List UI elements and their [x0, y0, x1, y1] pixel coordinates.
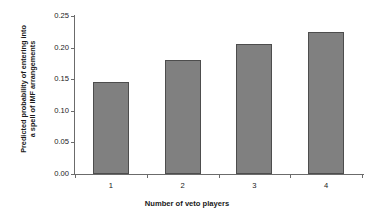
bar [165, 60, 201, 174]
y-axis-tick-label: 0.00 [54, 170, 69, 178]
x-axis-title: Number of veto players [0, 199, 374, 208]
x-axis-tick-label: 2 [181, 182, 185, 190]
x-axis-tick [75, 174, 76, 178]
x-axis-tick [362, 174, 363, 178]
bar [308, 32, 344, 174]
x-axis-tick-label: 4 [324, 182, 328, 190]
y-axis-tick-label: 0.15 [54, 75, 69, 83]
y-axis-tick [71, 48, 75, 49]
y-axis-title-line-1: Predicted probability of entering into [19, 25, 29, 153]
y-axis-tick [71, 111, 75, 112]
y-axis-tick-label: 0.20 [54, 44, 69, 52]
y-axis-title: Predicted probability of entering into a… [15, 4, 41, 174]
y-axis-tick [71, 142, 75, 143]
x-axis-tick [219, 174, 220, 178]
y-axis-tick-label: 0.25 [54, 12, 69, 20]
y-axis-tick-label: 0.10 [54, 107, 69, 115]
x-axis-tick [147, 174, 148, 178]
y-axis-tick [71, 16, 75, 17]
y-axis-tick [71, 79, 75, 80]
x-axis-tick-label: 1 [109, 182, 113, 190]
x-axis-tick-label: 3 [252, 182, 256, 190]
bar [93, 82, 129, 174]
bar [236, 44, 272, 174]
y-axis-title-line-2: a spell of IMF arrangements [28, 25, 38, 153]
y-axis-tick-label: 0.05 [54, 139, 69, 147]
bar-chart: Predicted probability of entering into a… [0, 0, 374, 219]
x-axis-tick [290, 174, 291, 178]
